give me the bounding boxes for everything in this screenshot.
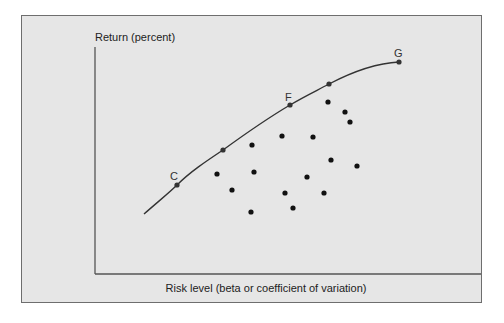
portfolio-dot — [290, 205, 295, 210]
portfolio-dot — [354, 163, 359, 168]
x-axis-label: Risk level (beta or coefficient of varia… — [166, 282, 367, 294]
point-f-marker — [287, 102, 292, 107]
point-f-label: F — [285, 91, 292, 103]
portfolio-dot — [321, 190, 326, 195]
point-g-marker — [396, 59, 401, 64]
portfolio-dot — [282, 190, 287, 195]
portfolio-dot — [214, 171, 219, 176]
portfolio-dot — [310, 134, 315, 139]
frontier-points — [174, 59, 401, 187]
portfolio-dot — [325, 99, 330, 104]
frontier-marker — [220, 147, 225, 152]
portfolio-dot — [347, 119, 352, 124]
point-c-marker — [174, 182, 179, 187]
portfolio-dot — [251, 169, 256, 174]
efficient-frontier-curve — [144, 62, 399, 214]
portfolio-dot — [304, 174, 309, 179]
efficient-frontier-diagram: Return (percent) Risk level (beta or coe… — [0, 0, 504, 323]
portfolio-dot — [248, 209, 253, 214]
portfolio-dot — [229, 187, 234, 192]
frontier-marker — [326, 81, 331, 86]
portfolio-dot — [279, 133, 284, 138]
portfolio-dot — [342, 109, 347, 114]
portfolio-dots — [214, 99, 359, 214]
portfolio-dot — [249, 142, 254, 147]
portfolio-dot — [328, 157, 333, 162]
y-axis-label: Return (percent) — [95, 31, 175, 43]
point-g-label: G — [394, 47, 403, 59]
point-c-label: C — [170, 170, 178, 182]
